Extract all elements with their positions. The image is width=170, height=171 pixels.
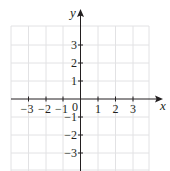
svg-text:2: 2 <box>71 56 77 70</box>
axes <box>11 14 158 171</box>
y-axis-label: y <box>68 5 76 20</box>
svg-text:3: 3 <box>71 38 77 52</box>
coordinate-plane: y x −3 −2 −1 1 2 3 0 3 2 1 −1 −2 −3 <box>0 0 170 171</box>
svg-text:−2: −2 <box>64 128 77 142</box>
x-tick-labels: −3 −2 −1 1 2 3 <box>21 102 136 116</box>
svg-text:−1: −1 <box>64 110 77 124</box>
x-axis-label: x <box>159 98 166 113</box>
svg-text:−3: −3 <box>64 146 77 160</box>
svg-text:3: 3 <box>130 102 136 116</box>
svg-text:1: 1 <box>95 102 101 116</box>
svg-text:2: 2 <box>113 102 119 116</box>
svg-text:−3: −3 <box>21 102 34 116</box>
svg-text:1: 1 <box>71 74 77 88</box>
svg-text:−2: −2 <box>38 102 51 116</box>
